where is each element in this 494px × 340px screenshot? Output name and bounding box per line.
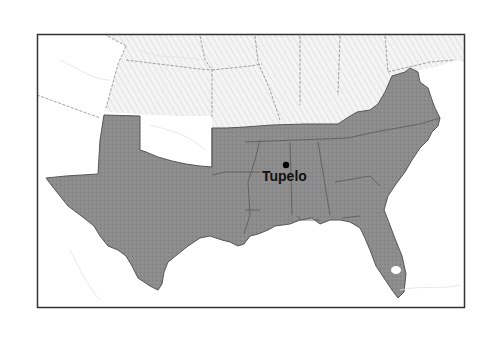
map-svg: Tupelo bbox=[0, 0, 494, 340]
map-figure: Tupelo bbox=[0, 0, 494, 340]
lake-okeechobee bbox=[391, 266, 401, 274]
city-label-tupelo: Tupelo bbox=[262, 168, 307, 184]
